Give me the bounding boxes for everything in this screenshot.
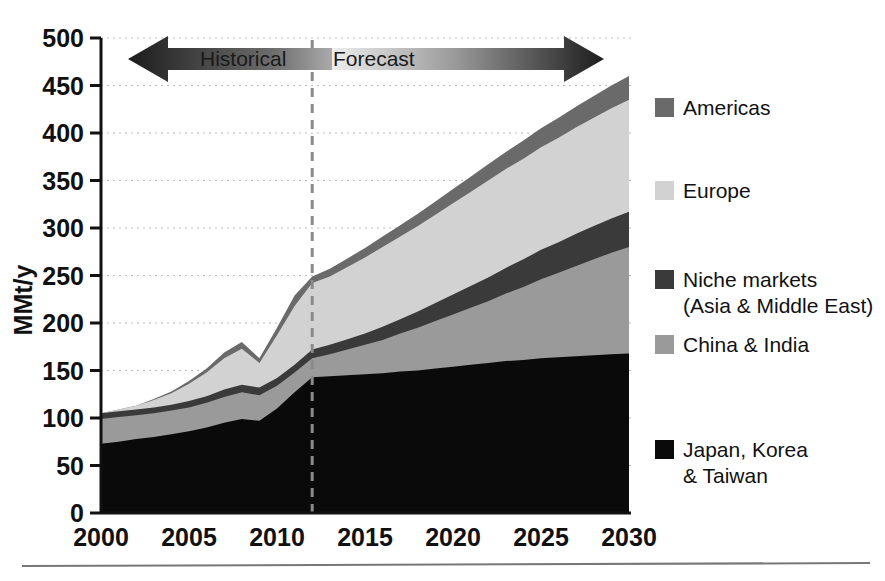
legend-label2-4: & Taiwan [683, 464, 768, 487]
legend-swatch-3 [655, 335, 674, 354]
y-axis-title: MMt/y [9, 264, 37, 335]
legend-label-0: Americas [683, 96, 771, 119]
y-tick-label: 500 [42, 24, 84, 52]
x-tick-label: 2030 [601, 523, 657, 551]
x-tick-label: 2000 [73, 523, 129, 551]
legend-swatch-0 [655, 98, 674, 117]
y-tick-label: 150 [42, 357, 84, 385]
y-tick-label: 350 [42, 167, 84, 195]
y-tick-label: 300 [42, 214, 84, 242]
y-tick-label: 450 [42, 72, 84, 100]
y-tick-label: 200 [42, 309, 84, 337]
x-tick-label: 2020 [425, 523, 481, 551]
legend-label-4: Japan, Korea [683, 438, 808, 461]
x-tick-label: 2015 [337, 523, 393, 551]
legend-label-3: China & India [683, 333, 809, 356]
legend-swatch-2 [655, 270, 674, 289]
legend-label2-2: (Asia & Middle East) [683, 294, 873, 317]
x-tick-label: 2010 [249, 523, 305, 551]
historical-label: Historical [200, 47, 286, 70]
legend-swatch-4 [655, 440, 674, 459]
stacked-area-chart: 050100150200250300350400450500 200020052… [0, 0, 885, 581]
legend-label-2: Niche markets [683, 268, 817, 291]
y-tick-label: 250 [42, 262, 84, 290]
x-tick-label: 2005 [161, 523, 217, 551]
x-tick-label: 2025 [513, 523, 569, 551]
legend-swatch-1 [655, 181, 674, 200]
y-tick-label: 100 [42, 404, 84, 432]
forecast-label: Forecast [333, 47, 415, 70]
y-tick-label: 50 [56, 452, 84, 480]
y-tick-label: 400 [42, 119, 84, 147]
legend-label-1: Europe [683, 179, 751, 202]
